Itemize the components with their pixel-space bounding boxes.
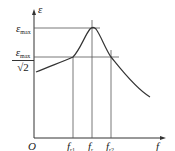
fr1-label: fr1 — [67, 141, 75, 151]
fr-label: fr — [88, 141, 93, 151]
emax-sqrt2-label: εmax √2 — [12, 47, 34, 73]
emax-label: εmax — [16, 23, 31, 35]
y-axis-label: ε — [38, 4, 42, 15]
origin-label: O — [28, 141, 36, 151]
x-axis-arrow-icon — [160, 136, 166, 140]
resonance-curve — [36, 28, 150, 98]
x-axis-label: f — [156, 141, 159, 151]
fr2-label: fr2 — [106, 141, 114, 151]
y-axis-arrow-icon — [32, 9, 36, 15]
